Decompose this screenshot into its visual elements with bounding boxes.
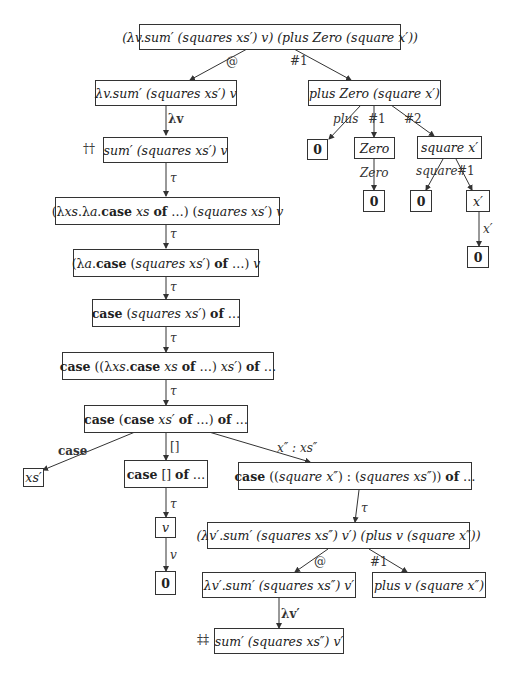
app-right-node: plus Zero (square x′) bbox=[308, 80, 441, 106]
beta1-node: (λxs.λa.case xs of …) (squares xs′) v bbox=[55, 197, 280, 225]
zero-v-node: 0 bbox=[155, 571, 176, 595]
xs-leaf-node: xs′ bbox=[23, 468, 44, 487]
x-prime-node: x′ bbox=[466, 190, 490, 212]
app2-right-node: plus v (square x″) bbox=[372, 572, 486, 598]
edge-label-tau1: τ bbox=[170, 171, 177, 185]
root-node: (λv.sum′ (squares xs′) v) (plus Zero (sq… bbox=[139, 24, 401, 50]
edge-label-x-prime: x′ bbox=[483, 222, 493, 236]
edge-label-case: case bbox=[58, 444, 87, 458]
edge-label-hash1-top: #1 bbox=[290, 54, 308, 68]
edge-label-hash1-2: #1 bbox=[370, 555, 388, 569]
edge-label-nil: [] bbox=[170, 440, 179, 454]
x-prime-zero-node: 0 bbox=[467, 246, 489, 268]
edge-label-square: square bbox=[416, 164, 458, 178]
root2-node: (λv′.sum′ (squares xs″) v′) (plus v (squ… bbox=[207, 522, 470, 549]
edge-label-tau4: τ bbox=[170, 331, 177, 345]
edge-label-zero: Zero bbox=[360, 166, 388, 180]
double-dagger-mark: ‡‡ bbox=[197, 633, 209, 647]
sum-v2-node: sum′ (squares xs″) v′ bbox=[214, 628, 344, 654]
v-node: v bbox=[155, 517, 176, 538]
dagger-mark: †† bbox=[83, 142, 95, 156]
edge-label-tau5: τ bbox=[170, 384, 177, 398]
edge-label-lambda-v: λv bbox=[168, 112, 183, 126]
zero-con-child-node: 0 bbox=[363, 190, 385, 212]
square-x-node: square x′ bbox=[417, 136, 482, 159]
edge-label-at1: @ bbox=[226, 55, 238, 69]
edge-label-tau3: τ bbox=[170, 280, 177, 294]
edge-label-v: v bbox=[170, 548, 177, 562]
square-zero-node: 0 bbox=[410, 190, 432, 212]
edge-label-tau-cons: τ bbox=[361, 501, 368, 515]
edge-label-at2: @ bbox=[314, 555, 326, 569]
case-nil-node: case [] of … bbox=[124, 460, 208, 488]
sum-v-node: sum′ (squares xs′) v bbox=[103, 137, 228, 163]
edge-label-cons: x″ : xs″ bbox=[277, 441, 317, 455]
app2-left-node: λv′.sum′ (squares xs″) v′ bbox=[202, 572, 356, 598]
app-left-node: λv.sum′ (squares xs′) v bbox=[95, 80, 237, 106]
edge-label-tau2: τ bbox=[170, 227, 177, 241]
beta2-node: (λa.case (squares xs′) of …) v bbox=[73, 249, 259, 277]
case-cons-node: case ((square x″) : (squares xs″)) of … bbox=[238, 462, 472, 490]
edge-label-plus: plus bbox=[333, 112, 358, 126]
edge-label-tau-nil: τ bbox=[170, 497, 177, 511]
case1-node: case (squares xs′) of … bbox=[92, 299, 240, 327]
process-tree-diagram: (λv.sum′ (squares xs′) v) (plus Zero (sq… bbox=[0, 0, 511, 674]
case3-node: case (case xs′ of …) of … bbox=[84, 405, 248, 433]
edge-label-lambda-v2: λv′ bbox=[281, 607, 300, 621]
zero-con-node: Zero bbox=[354, 137, 395, 159]
edge-label-hash2-plus: #2 bbox=[404, 112, 422, 126]
case2-node: case ((λxs.case xs of …) xs′) of … bbox=[62, 352, 274, 380]
edge-label-hash1-square: #1 bbox=[457, 164, 475, 178]
plus-zero-node: 0 bbox=[307, 139, 328, 160]
edge-label-hash1-plus: #1 bbox=[368, 112, 386, 126]
